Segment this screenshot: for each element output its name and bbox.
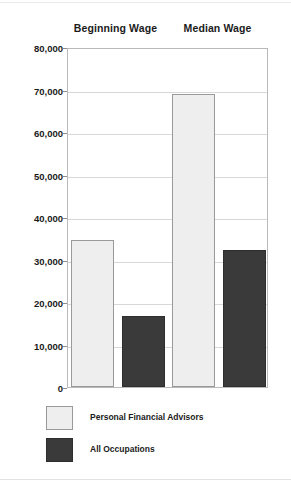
y-axis-labels: 010,00020,00030,00040,00050,00060,00070,…	[0, 48, 63, 388]
legend-swatch-icon-light	[46, 406, 73, 430]
gridline	[68, 134, 267, 135]
group-header-median-wage: Median Wage	[165, 22, 270, 34]
gridline	[68, 92, 267, 93]
bar	[223, 250, 266, 387]
y-axis-tick-label: 0	[3, 383, 63, 394]
y-axis-tick-label: 40,000	[3, 213, 63, 224]
legend-label-all-occupations: All Occupations	[90, 444, 155, 454]
y-axis-tick-mark	[63, 388, 67, 389]
bottom-divider	[0, 479, 291, 480]
bar	[122, 316, 165, 387]
bar	[172, 94, 215, 387]
y-axis-tick-label: 10,000	[3, 340, 63, 351]
y-axis-tick-label: 30,000	[3, 255, 63, 266]
legend-swatch-icon-dark	[46, 438, 73, 462]
plot-inner	[68, 49, 267, 387]
y-axis-tick-label: 60,000	[3, 128, 63, 139]
chart-page: Beginning Wage Median Wage 010,00020,000…	[0, 0, 291, 488]
y-axis-tick-label: 70,000	[3, 85, 63, 96]
chart-legend: Personal Financial Advisors All Occupati…	[46, 404, 276, 468]
gridline	[68, 177, 267, 178]
bar	[71, 240, 114, 387]
legend-item-personal-financial-advisors: Personal Financial Advisors	[46, 404, 276, 436]
y-axis-tick-label: 50,000	[3, 170, 63, 181]
legend-label-personal-financial-advisors: Personal Financial Advisors	[90, 412, 204, 422]
top-divider	[0, 2, 291, 3]
legend-item-all-occupations: All Occupations	[46, 436, 276, 468]
group-header-row: Beginning Wage Median Wage	[0, 22, 291, 40]
group-header-beginning-wage: Beginning Wage	[63, 22, 168, 34]
plot-area	[67, 48, 268, 388]
gridline	[68, 219, 267, 220]
y-axis-tick-label: 20,000	[3, 298, 63, 309]
y-axis-tick-label: 80,000	[3, 43, 63, 54]
